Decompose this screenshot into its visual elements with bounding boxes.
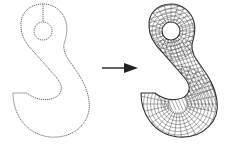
- mesh-element-edge: [128, 0, 178, 4]
- hook-eye-hole: [34, 22, 52, 40]
- hook-mesh-diagram: [0, 0, 236, 145]
- mesh-element-edge: [158, 69, 174, 97]
- mesh-element-edge: [166, 66, 176, 96]
- right-arrow-icon: [102, 63, 138, 73]
- mesh-eye-hole: [162, 22, 180, 40]
- hook-quad-mesh: [126, 0, 234, 144]
- hook-boundary-outline: [13, 4, 89, 137]
- hook-outer-boundary: [13, 4, 89, 137]
